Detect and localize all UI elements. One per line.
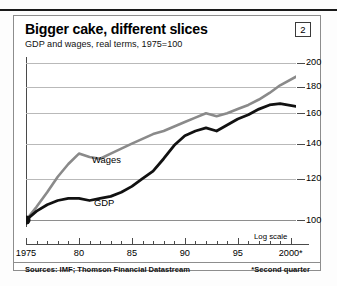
x-tick-1983 <box>111 241 112 244</box>
x-axis-labels: 1975808590952000* <box>14 248 322 262</box>
x-tick-label-95: 95 <box>233 248 243 258</box>
x-axis-ticks <box>26 238 309 245</box>
y-tick-label-200: 200 <box>306 58 321 67</box>
x-tick-2000 <box>291 238 292 244</box>
y-tick-140 <box>297 144 305 145</box>
chart-header: Bigger cake, different slices GDP and wa… <box>25 21 312 50</box>
chart-title: Bigger cake, different slices <box>25 21 312 37</box>
x-tick-1994 <box>227 241 228 244</box>
x-tick-label-90: 90 <box>180 248 190 258</box>
x-tick-label-2000: 2000* <box>279 248 303 258</box>
y-tick-200 <box>297 63 305 64</box>
x-tick-1985 <box>132 238 133 244</box>
x-tick-1976 <box>37 241 38 244</box>
x-tick-1981 <box>90 241 91 244</box>
series-line-gdp <box>26 104 296 221</box>
series-label-wages: Wages <box>92 154 121 165</box>
x-tick-1992 <box>206 241 207 244</box>
x-tick-1996 <box>248 241 249 244</box>
x-tick-1995 <box>238 238 239 244</box>
x-tick-label-1975: 1975 <box>16 248 36 258</box>
x-tick-1990 <box>185 238 186 244</box>
footnote-second-quarter: *Second quarter <box>251 265 310 274</box>
x-tick-1978 <box>58 241 59 244</box>
y-tick-100 <box>297 220 305 221</box>
x-tick-1999 <box>280 241 281 244</box>
y-tick-180 <box>297 87 305 88</box>
series-label-gdp: GDP <box>94 197 114 208</box>
x-tick-1975 <box>26 238 27 244</box>
y-tick-label-140: 140 <box>306 139 321 148</box>
y-tick-120 <box>297 179 305 180</box>
y-tick-160 <box>297 113 305 114</box>
chart-card: Bigger cake, different slices GDP and wa… <box>13 15 321 271</box>
x-tick-1979 <box>68 241 69 244</box>
chart-number-badge: 2 <box>295 22 311 37</box>
y-axis-labels: 100120140160180200 <box>297 57 337 232</box>
x-tick-1982 <box>100 241 101 244</box>
footer-divider <box>14 262 320 263</box>
x-tick-1988 <box>164 241 165 244</box>
x-tick-1993 <box>217 241 218 244</box>
x-tick-1989 <box>174 241 175 244</box>
x-tick-1991 <box>195 241 196 244</box>
y-tick-label-120: 120 <box>306 174 321 183</box>
chart-subtitle: GDP and wages, real terms, 1975=100 <box>25 38 312 50</box>
x-tick-1987 <box>153 241 154 244</box>
x-tick-label-80: 80 <box>74 248 84 258</box>
y-tick-label-160: 160 <box>306 109 321 118</box>
x-tick-1998 <box>270 241 271 244</box>
x-tick-1980 <box>79 238 80 244</box>
x-tick-label-85: 85 <box>127 248 137 258</box>
sources-note: Sources: IMF; Thomson Financial Datastre… <box>25 265 190 274</box>
top-divider <box>0 9 337 11</box>
screenshot-root: Bigger cake, different slices GDP and wa… <box>0 0 337 286</box>
y-tick-label-180: 180 <box>306 82 321 91</box>
y-tick-label-100: 100 <box>306 216 321 225</box>
series-svg <box>26 57 296 227</box>
x-tick-1977 <box>47 241 48 244</box>
plot-area: Wages GDP <box>26 57 296 227</box>
x-tick-1997 <box>259 241 260 244</box>
x-tick-1984 <box>121 241 122 244</box>
x-tick-1986 <box>143 241 144 244</box>
